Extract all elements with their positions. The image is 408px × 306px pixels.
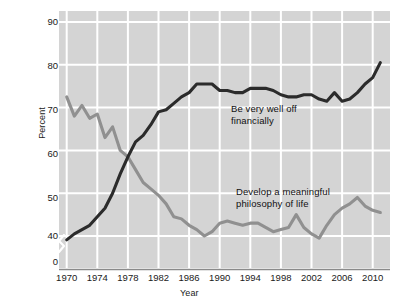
x-tick-2010: 2010: [356, 272, 390, 283]
x-tick-2002: 2002: [295, 272, 329, 283]
line-chart: [0, 0, 408, 306]
x-tick-1994: 1994: [233, 272, 267, 283]
x-tick-1986: 1986: [172, 272, 206, 283]
x-tick-1990: 1990: [203, 272, 237, 283]
x-axis-title: Year: [180, 288, 199, 298]
annotation-line: philosophy of life: [236, 198, 330, 210]
y-axis-title: Percent: [37, 83, 47, 163]
x-tick-1974: 1974: [80, 272, 114, 283]
y-tick-50: 50: [32, 193, 58, 203]
annotation-line: financially: [231, 115, 297, 127]
plot-area-background: [59, 11, 390, 268]
y-tick-90: 90: [32, 17, 58, 27]
x-tick-1970: 1970: [50, 272, 84, 283]
annotation-line: Develop a meaningful: [236, 186, 330, 198]
x-tick-1998: 1998: [264, 272, 298, 283]
y-tick-0: 0: [32, 257, 58, 267]
x-tick-1982: 1982: [142, 272, 176, 283]
annotation-line: Be very well off: [231, 103, 297, 115]
y-tick-80: 80: [32, 61, 58, 71]
series-annotation-philosophy: Develop a meaningfulphilosophy of life: [236, 186, 330, 210]
series-annotation-financial: Be very well offfinancially: [231, 103, 297, 127]
y-tick-40: 40: [32, 231, 58, 241]
x-tick-1978: 1978: [111, 272, 145, 283]
chart-container: 90 80 70 60 50 40 0 19701974197819821986…: [0, 0, 408, 306]
x-tick-2006: 2006: [325, 272, 359, 283]
